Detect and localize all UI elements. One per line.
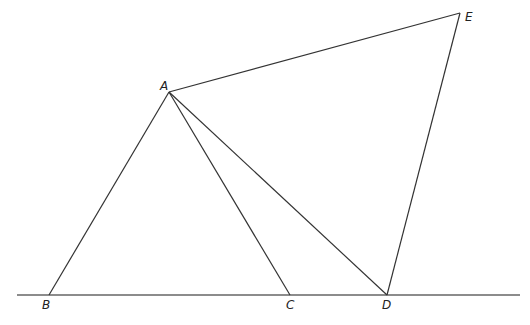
segment-AB: [49, 92, 169, 295]
geometry-diagram: A B C D E: [0, 0, 530, 325]
point-label-d: D: [382, 298, 391, 312]
point-label-b: B: [42, 298, 50, 312]
point-label-e: E: [465, 10, 473, 24]
segment-AD: [169, 92, 387, 295]
segment-AE: [169, 13, 460, 92]
segment-AC: [169, 92, 290, 295]
diagram-svg: A B C D E: [0, 0, 530, 325]
point-label-c: C: [286, 298, 295, 312]
segment-ED: [387, 13, 460, 295]
point-label-a: A: [159, 79, 168, 93]
